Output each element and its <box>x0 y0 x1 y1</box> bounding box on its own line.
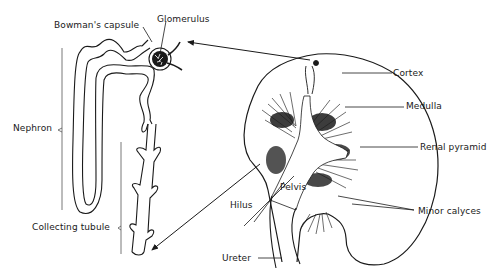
label-glomerulus: Glomerulus <box>157 14 210 24</box>
cortex-nephron <box>305 61 318 95</box>
kidney-outline-hilus <box>244 86 282 262</box>
label-ureter: Ureter <box>222 253 251 263</box>
label-collecting-tubule: Collecting tubule <box>32 222 110 232</box>
label-cortex: Cortex <box>393 68 423 78</box>
nephron-bracket <box>58 48 62 210</box>
label-bowmans-capsule: Bowman's capsule <box>54 20 139 30</box>
collecting-tubule <box>130 124 161 255</box>
glomerulus-graphic <box>149 42 182 70</box>
kidney-nephron-diagram: Bowman's capsule Glomerulus Nephron Coll… <box>0 0 501 276</box>
label-minor-calyces: Minor calyces <box>418 206 481 216</box>
collecting-tubule-bracket <box>118 142 121 254</box>
label-hilus: Hilus <box>230 200 253 210</box>
nephron-tubule <box>73 39 155 213</box>
label-renal-pyramid: Renal pyramid <box>420 142 487 152</box>
arrow-to-glomerulus <box>188 42 310 60</box>
label-nephron: Nephron <box>13 123 52 133</box>
diagram-artwork <box>0 0 501 276</box>
label-pelvis: Pelvis <box>280 182 306 192</box>
label-medulla: Medulla <box>406 101 442 111</box>
